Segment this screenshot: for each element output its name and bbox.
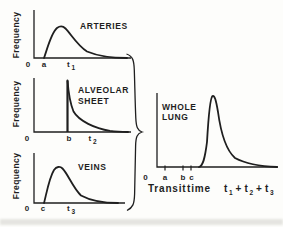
alveolar-tick-mean-subscript: 2 (93, 138, 97, 145)
arteries-axes (34, 10, 131, 58)
whole-lung-axis-tick-marks (165, 166, 191, 171)
whole-lung-title-line1: WHOLE (162, 102, 197, 112)
arteries-tick-mean-subscript: 1 (72, 64, 76, 71)
arteries-tick-mean: t (67, 60, 70, 69)
alveolar-tick-mean: t (89, 134, 92, 143)
arteries-curve (44, 26, 127, 58)
figure-canvas: Frequency ARTERIES 0 a t 1 Frequency ALV… (0, 0, 283, 227)
sum-t2-base: t (245, 183, 249, 194)
arteries-tick-origin: 0 (26, 60, 31, 69)
veins-tick-mean-subscript: 3 (72, 208, 76, 215)
arteries-title: ARTERIES (80, 21, 128, 31)
sum-t3-subscript: 3 (270, 189, 274, 196)
panel-arteries: Frequency ARTERIES 0 a t 1 (11, 10, 131, 71)
whole-lung-title-line2: LUNG (162, 112, 188, 122)
scan-shadow-band (0, 219, 283, 225)
whole-lung-tick-b: b (181, 173, 186, 182)
sum-t3-base: t (265, 183, 269, 194)
sum-t1-base: t (224, 183, 228, 194)
alveolar-tick-onset: b (67, 134, 72, 143)
whole-lung-tick-origin: 0 (143, 173, 148, 182)
whole-lung-tick-c: c (189, 173, 194, 182)
veins-tick-onset: c (41, 204, 46, 213)
alveolar-y-axis-label: Frequency (11, 81, 21, 128)
whole-lung-mean-sum-label: t 1 + t 2 + t 3 (224, 183, 274, 196)
whole-lung-x-axis-label-word1: Transit (148, 183, 186, 194)
panel-veins: Frequency VEINS 0 c t 3 (11, 153, 125, 215)
alveolar-title-line1: ALVEOLAR (78, 85, 129, 95)
sum-plus1: + (236, 183, 242, 194)
panel-whole-lung: WHOLE LUNG 0 a b c Transit time t 1 + t … (143, 93, 278, 196)
veins-tick-mean: t (67, 204, 70, 213)
veins-title: VEINS (78, 162, 107, 172)
sum-t2-subscript: 2 (250, 189, 254, 196)
sum-plus2: + (256, 183, 262, 194)
veins-y-axis-label: Frequency (11, 153, 21, 200)
veins-tick-origin: 0 (25, 204, 30, 213)
sum-t1-subscript: 1 (229, 189, 233, 196)
panel-alveolar-sheet: Frequency ALVEOLAR SHEET 0 b t 2 (11, 78, 131, 145)
veins-axes (34, 153, 125, 203)
arteries-y-axis-label: Frequency (11, 12, 21, 59)
whole-lung-curve (199, 96, 277, 167)
figure-transit-time-distributions: Frequency ARTERIES 0 a t 1 Frequency ALV… (0, 0, 283, 227)
alveolar-tick-origin: 0 (25, 134, 30, 143)
whole-lung-x-axis-label-word2: time (187, 183, 211, 194)
whole-lung-tick-a: a (163, 173, 168, 182)
veins-curve (44, 167, 118, 203)
arteries-tick-onset: a (42, 60, 47, 69)
alveolar-title-line2: SHEET (78, 96, 110, 106)
